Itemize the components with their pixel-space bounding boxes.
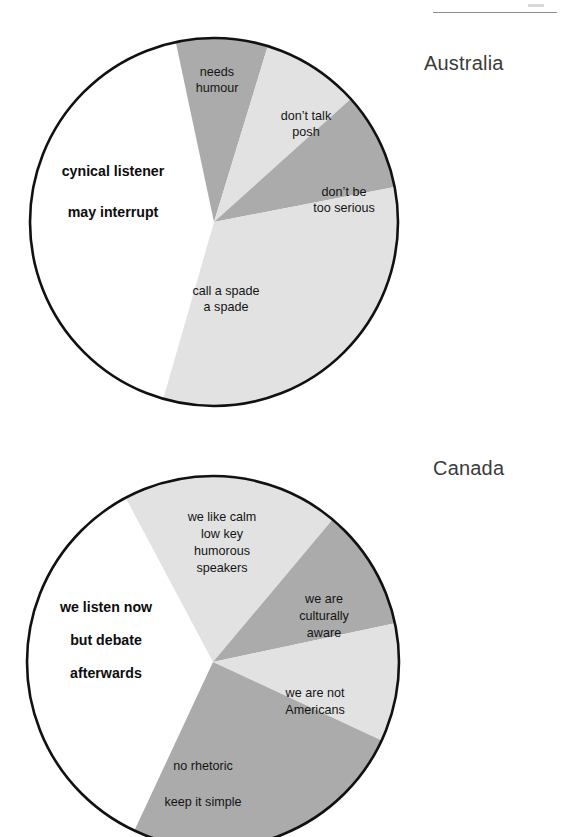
- label-line: low key: [201, 527, 244, 541]
- country-label-canada: Canada: [433, 457, 504, 480]
- svg-text:we listen nowbut debateafterwa: we listen nowbut debateafterwards: [59, 599, 153, 681]
- label-line: afterwards: [70, 665, 142, 681]
- slice-label-we-listen-now-but-debate-afterwards: we listen nowbut debateafterwards: [59, 599, 153, 681]
- label-line: but debate: [70, 632, 142, 648]
- label-line: we like calm: [187, 510, 257, 524]
- label-line: culturally: [299, 609, 349, 623]
- label-line: Americans: [285, 703, 345, 717]
- label-line: keep it simple: [165, 795, 242, 809]
- label-line: we are: [304, 592, 343, 606]
- page-root: cynical listenermay interruptneedshumour…: [0, 0, 563, 837]
- label-line: we listen now: [59, 599, 153, 615]
- pie-chart-canada: we listen nowbut debateafterwardswe like…: [0, 0, 563, 837]
- label-line: humorous: [194, 544, 250, 558]
- label-line: speakers: [196, 561, 247, 575]
- label-line: aware: [307, 626, 341, 640]
- label-line: no rhetoric: [173, 759, 233, 773]
- label-line: we are not: [285, 686, 345, 700]
